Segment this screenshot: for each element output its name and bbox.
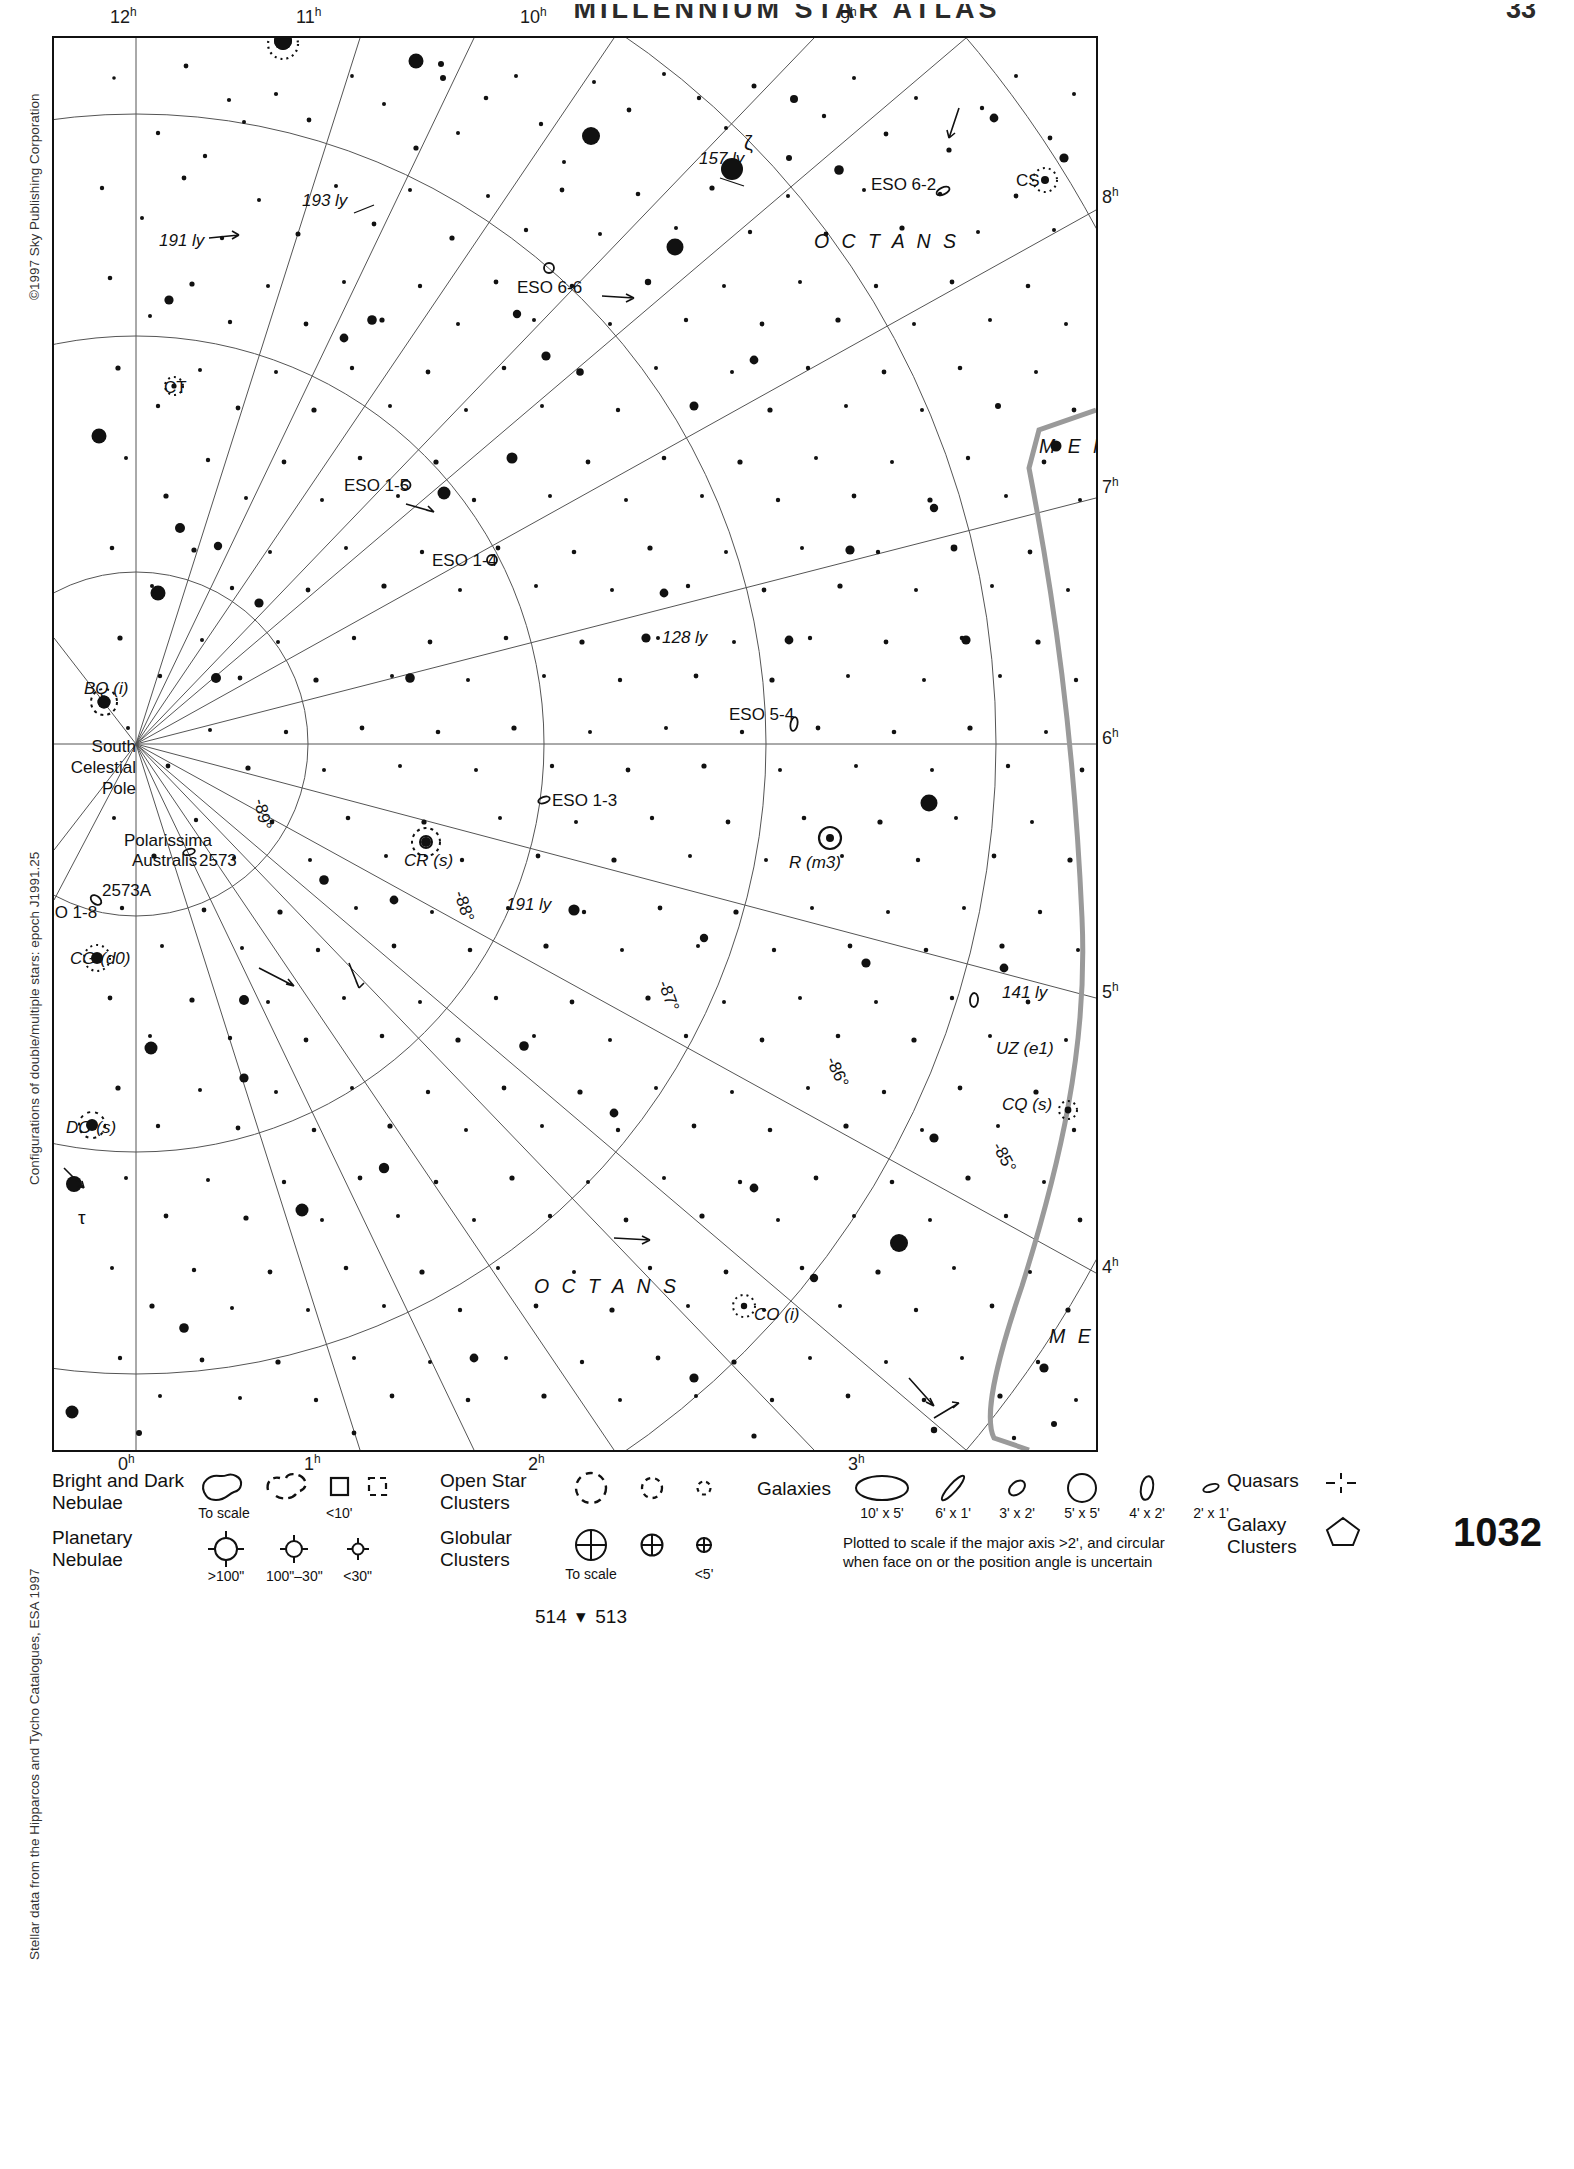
label-eso-1-8: ESO 1-8 (54, 903, 97, 922)
label-pole-line2: Celestial (71, 758, 136, 777)
legend-symbol-open-cluster-large (564, 1470, 618, 1521)
label-do-var: DO (s) (66, 1118, 116, 1137)
legend-row-globular-clusters: GlobularClusters To scale (440, 1527, 728, 1582)
legend-symbol-open-cluster-medium (630, 1470, 674, 1521)
constellation-boundary-mensa (990, 410, 1096, 1450)
label-ngc-2573: 2573 (199, 851, 237, 870)
label-zeta: ζ (744, 132, 753, 154)
legend-symbol-open-cluster-small (686, 1470, 722, 1521)
marked-star-cores (86, 176, 1071, 1309)
legend-caption-2x1: 2' x 1' (1193, 1505, 1229, 1521)
galaxy-symbols (89, 185, 979, 1007)
label-cs: CS (1016, 171, 1040, 190)
dec-label-88: -88° (450, 888, 478, 924)
legend-caption-gt100: >100" (208, 1568, 245, 1584)
chart-number: 1032 (1453, 1510, 1542, 1555)
legend-symbol-dark-nebula-small (364, 1470, 390, 1521)
label-eso-1-4: ESO 1-4 (432, 551, 497, 570)
legend-caption-4x2: 4' x 2' (1129, 1505, 1165, 1521)
dec-label-85: -85° (988, 1139, 1020, 1176)
label-141ly: 141 ly (1002, 983, 1049, 1002)
label-polarissima-1: Polarissima (124, 831, 212, 850)
label-191ly-lower: 191 ly (506, 895, 553, 914)
legend-symbol-galaxy-5x5: 5' x 5' (1055, 1470, 1109, 1521)
medium-stars (164, 114, 1068, 1383)
label-co-var: CO (i) (754, 1305, 799, 1324)
label-tau: τ (78, 1207, 86, 1228)
constellation-label-mensa-bottom: M E N (1049, 1325, 1096, 1347)
legend-caption-globular-to-scale: To scale (565, 1566, 616, 1582)
atlas-page: MILLENNIUM STAR ATLAS 33 ©1997 Sky Publi… (0, 0, 1574, 2169)
page-number-top: 33 (1506, 0, 1536, 25)
source-note: Stellar data from the Hipparcos and Tych… (27, 1569, 42, 1961)
legend-caption-6x1: 6' x 1' (935, 1505, 971, 1521)
legend-label-galaxy-clusters: GalaxyClusters (1227, 1514, 1315, 1558)
hour-label-6h: 6h (1102, 726, 1119, 749)
label-uz-var: UZ (e1) (996, 1039, 1054, 1058)
legend-symbol-planetary-small: <30" (335, 1527, 381, 1584)
legend-label-galaxies: Galaxies (757, 1470, 843, 1500)
legend-row-galaxy-clusters: GalaxyClusters (1227, 1514, 1371, 1558)
legend-row-quasars: Quasars (1227, 1470, 1371, 1496)
legend-symbol-globular-medium (630, 1527, 674, 1582)
legend-symbol-globular-large: To scale (564, 1527, 618, 1582)
legend-column-galaxies: Galaxies 10' x 5' 6' x 1' 3' x 2' (757, 1470, 1243, 1571)
label-eso-5-4: ESO 5-4 (729, 705, 794, 724)
chart-text-labels: O C T A N S O C T A N S M E N M E N 157 … (54, 132, 1096, 1347)
legend-caption-to-scale: To scale (198, 1505, 249, 1521)
legend-symbol-galaxy-cluster (1321, 1514, 1365, 1548)
hour-label-4h: 4h (1102, 1255, 1119, 1278)
label-pole-line1: South (92, 737, 136, 756)
hour-label-5h: 5h (1102, 980, 1119, 1003)
label-eso-6-2: ESO 6-2 (871, 175, 936, 194)
star-chart: O C T A N S O C T A N S M E N M E N 157 … (52, 36, 1098, 1452)
legend-label-quasars: Quasars (1227, 1470, 1315, 1492)
label-eso-1-3: ESO 1-3 (552, 791, 617, 810)
legend-row-bright-dark-nebulae: Bright and DarkNebulae To scale <10' (52, 1470, 396, 1521)
legend-symbol-galaxy-6x1: 6' x 1' (927, 1470, 979, 1521)
legend-column-quasars: Quasars GalaxyClusters (1227, 1470, 1371, 1564)
label-ngc-2573a: 2573A (102, 881, 152, 900)
ra-label-10h: 10h (520, 5, 547, 28)
hour-label-7h: 7h (1102, 475, 1119, 498)
ra-label-12h: 12h (110, 5, 137, 28)
legend-symbol-galaxy-4x2: 4' x 2' (1121, 1470, 1173, 1521)
legend: Bright and DarkNebulae To scale <10' (52, 1470, 1552, 1610)
dec-label-89: -89° (250, 797, 275, 832)
legend-label-globular-clusters: GlobularClusters (440, 1527, 558, 1571)
label-cg-var: CG (d0) (70, 949, 130, 968)
label-polarissima-2: Australis (132, 851, 197, 870)
hour-label-8h: 8h (1102, 185, 1119, 208)
constellation-label-mensa-top: M E N (1039, 435, 1096, 457)
legend-symbol-planetary-medium: 100"–30" (266, 1527, 323, 1584)
legend-symbol-nebula-small: <10' (326, 1470, 352, 1521)
legend-symbol-galaxy-3x2: 3' x 2' (991, 1470, 1043, 1521)
label-128ly: 128 ly (662, 628, 709, 647)
legend-caption-lt5: <5' (695, 1566, 714, 1582)
label-cq-var: CQ (s) (1002, 1095, 1052, 1114)
epoch-note: Configurations of double/multiple stars:… (27, 852, 42, 1185)
page-title: MILLENNIUM STAR ATLAS (0, 0, 1574, 25)
faint-stars (100, 64, 1085, 1441)
label-eso-6-6: ESO 6-6 (517, 278, 582, 297)
adjacent-chart-right: 513 (595, 1606, 627, 1627)
adjacent-chart-refs: 514 ▾ 513 (535, 1605, 627, 1628)
ra-label-11h: 11h (296, 5, 321, 28)
label-pole-line3: Pole (102, 779, 136, 798)
legend-column-nebulae: Bright and DarkNebulae To scale <10' (52, 1470, 396, 1590)
label-193ly: 193 ly (302, 191, 349, 210)
legend-caption-10x5: 10' x 5' (860, 1505, 903, 1521)
legend-symbol-globular-small: <5' (686, 1527, 722, 1582)
legend-label-open-clusters: Open StarClusters (440, 1470, 558, 1514)
down-arrow-icon: ▾ (576, 1605, 586, 1628)
dec-label-86: -86° (822, 1054, 852, 1090)
constellation-label-octans-bottom: O C T A N S (534, 1275, 679, 1297)
legend-caption-3x2: 3' x 2' (999, 1505, 1035, 1521)
proper-motion-arrows (64, 108, 959, 1418)
label-leaders (354, 178, 744, 213)
legend-symbol-galaxy-10x5: 10' x 5' (849, 1470, 915, 1521)
legend-label-planetary-nebulae: PlanetaryNebulae (52, 1527, 192, 1571)
legend-row-planetary-nebulae: PlanetaryNebulae >100" 100"–30" (52, 1527, 396, 1584)
legend-column-clusters: Open StarClusters GlobularClusters (440, 1470, 728, 1588)
label-eso-1-5: ESO 1-5 (344, 476, 409, 495)
